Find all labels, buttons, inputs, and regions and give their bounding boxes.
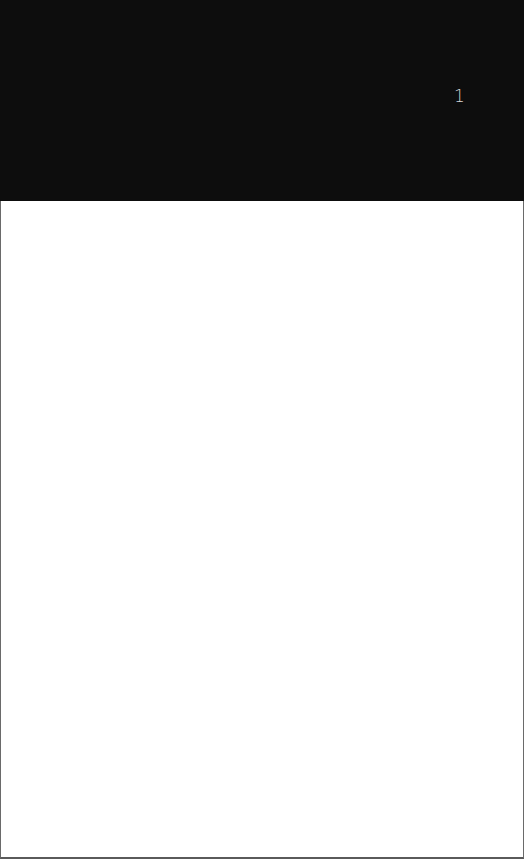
blank-content-area (0, 201, 524, 859)
page-number: 1 (454, 88, 465, 105)
header-band: 1 (0, 0, 524, 201)
document-page: 1 (0, 0, 524, 859)
